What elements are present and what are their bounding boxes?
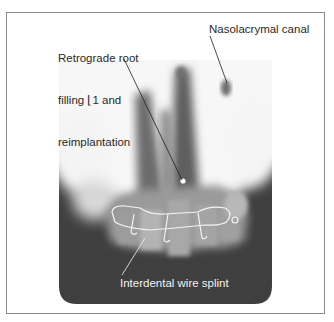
splint-label: Interdental wire splint (120, 276, 229, 290)
nasolacrymal-label: Nasolacrymal canal (209, 22, 309, 36)
retrograde-label-line3: reimplantation (58, 135, 139, 149)
retrograde-label-line1: Retrograde root (58, 51, 139, 65)
xray-image (0, 0, 334, 322)
retrograde-label: Retrograde root filling ⌊1 and reimplant… (58, 23, 139, 163)
retrograde-label-line2: filling ⌊1 and (58, 93, 139, 107)
